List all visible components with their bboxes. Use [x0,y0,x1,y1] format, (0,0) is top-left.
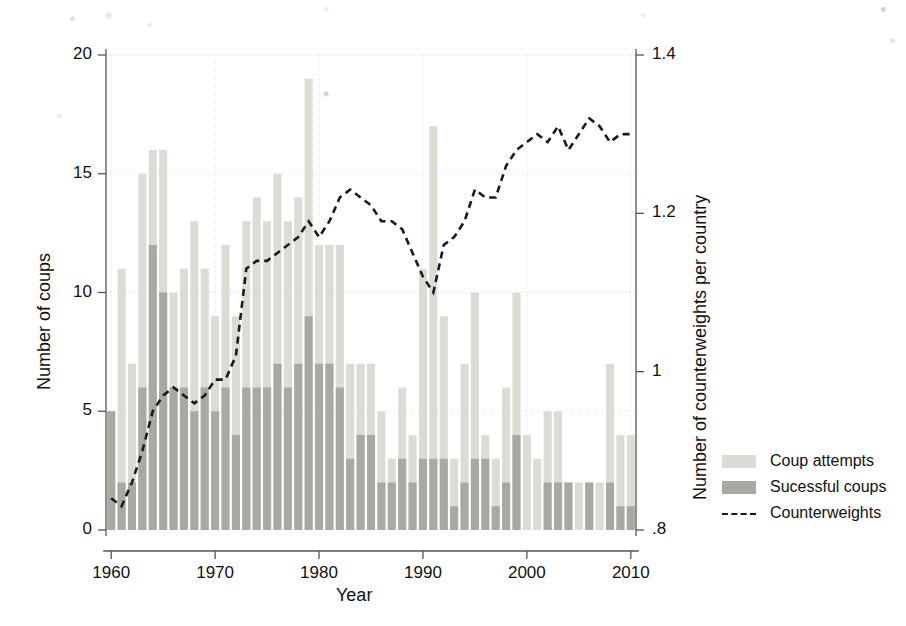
legend-item-successful-coups: Sucessful coups [722,474,887,500]
legend-label-coup-attempts: Coup attempts [770,452,874,470]
legend-item-coup-attempts: Coup attempts [722,448,887,474]
legend-swatch-successful-coups [722,481,756,494]
coups-and-counterweights-chart: 05101520 .811.21.4 196019701980199020002… [0,0,906,626]
legend-swatch-coup-attempts [722,455,756,468]
legend-label-successful-coups: Sucessful coups [770,478,887,496]
legend-label-counterweights: Counterweights [770,504,881,522]
legend-swatch-counterweights [722,507,756,520]
plot-canvas [0,0,906,626]
legend-item-counterweights: Counterweights [722,500,887,526]
chart-legend: Coup attempts Sucessful coups Counterwei… [722,448,887,526]
